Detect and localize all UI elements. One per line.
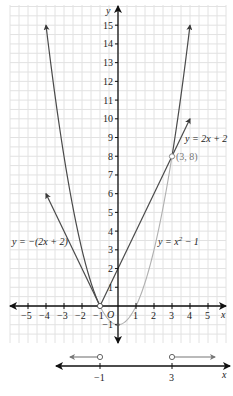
x-tick-label: 1: [133, 310, 138, 321]
y-tick-label: 9: [108, 132, 113, 143]
x-axis-label: x: [220, 309, 226, 320]
y-tick-label: 12: [103, 76, 113, 87]
vertex-point: [116, 323, 119, 326]
open-circle-3: [169, 354, 174, 359]
x-tick-label: −3: [57, 310, 68, 321]
number-line-tick-3: 3: [169, 372, 174, 383]
y-tick-label: 2: [108, 263, 113, 274]
y-tick-label: 15: [103, 20, 113, 31]
x-tick-label: −2: [75, 310, 86, 321]
y-tick-label: 10: [103, 113, 113, 124]
x-tick-label: 2: [151, 310, 156, 321]
y-tick-label: 6: [108, 188, 113, 199]
x-tick-label: 5: [205, 310, 210, 321]
point-label-3-8: (3, 8): [176, 151, 198, 163]
number-line-tick-neg1: −1: [94, 372, 105, 383]
y-tick-label: 13: [103, 57, 113, 68]
y-tick-label: 4: [108, 226, 113, 237]
x-tick-label: −5: [21, 310, 32, 321]
intersection-point-neg1-0: [97, 303, 102, 308]
y-tick-label: 11: [103, 95, 113, 106]
eq-label-parabola: y = x2 − 1: [157, 235, 199, 247]
x-tick-label: 4: [187, 310, 192, 321]
y-tick-label: 8: [108, 151, 113, 162]
x-tick-label: 3: [169, 310, 174, 321]
origin-label: O: [107, 309, 114, 320]
eq-label-neg-2x-plus-2: y = −(2x + 2): [11, 236, 68, 248]
y-tick-label: 5: [108, 207, 113, 218]
x-tick-label: −4: [39, 310, 50, 321]
y-tick-label: 1: [108, 282, 113, 293]
graph: −5−4−3−2−112345 151413121110987654321−1 …: [0, 0, 233, 396]
y-axis-label: y: [105, 5, 111, 16]
number-line-axis-label: x: [221, 369, 227, 380]
y-tick-label: 7: [108, 169, 113, 180]
eq-label-2x-plus-2: y = 2x + 2: [184, 133, 227, 144]
y-tick-label: −1: [102, 319, 113, 330]
number-line: [56, 354, 230, 369]
open-circle-neg1: [97, 354, 102, 359]
y-tick-label: 3: [108, 244, 113, 255]
intersection-point-3-8: [169, 154, 174, 159]
y-tick-label: 14: [103, 38, 113, 49]
